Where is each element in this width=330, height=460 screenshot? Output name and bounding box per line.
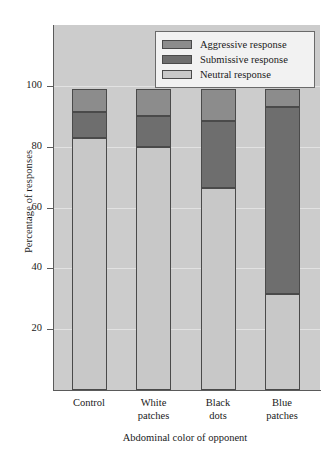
bar-segment: [265, 107, 300, 294]
bar-segment: [136, 147, 171, 390]
legend-swatch-neutral: [162, 70, 192, 79]
bar-segment: [201, 89, 236, 121]
y-tick-mark: [47, 147, 54, 148]
legend: Aggressive response Submissive response …: [155, 31, 315, 88]
legend-item-submissive: Submissive response: [162, 52, 308, 67]
legend-swatch-aggressive: [162, 40, 192, 49]
x-tick-label-line: Blue: [237, 396, 327, 409]
legend-label-submissive: Submissive response: [200, 54, 288, 65]
y-tick-mark: [47, 329, 54, 330]
y-tick-label: 40: [0, 261, 42, 272]
bar-segment: [265, 294, 300, 390]
bar-segment: [72, 138, 107, 390]
bar-segment: [265, 89, 300, 107]
legend-label-aggressive: Aggressive response: [200, 39, 287, 50]
x-axis-title: Abdominal color of opponent: [40, 432, 330, 443]
y-tick-label: 100: [0, 79, 42, 90]
bar-segment: [136, 116, 171, 146]
x-tick-label: Bluepatches: [237, 396, 327, 422]
legend-swatch-submissive: [162, 55, 192, 64]
y-tick-mark: [47, 268, 54, 269]
x-tick-label-line: patches: [237, 409, 327, 422]
x-axis-line: [53, 390, 321, 391]
y-tick-label: 60: [0, 201, 42, 212]
legend-item-neutral: Neutral response: [162, 67, 308, 82]
bar-segment: [201, 188, 236, 390]
bar-stack: [72, 25, 107, 390]
bar-segment: [136, 89, 171, 116]
y-tick-mark: [47, 86, 54, 87]
bar-segment: [201, 121, 236, 188]
bar-segment: [72, 89, 107, 112]
bar-segment: [72, 112, 107, 138]
chart-figure: Percentage of responses 20406080100 Cont…: [0, 0, 330, 460]
y-tick-label: 20: [0, 322, 42, 333]
y-tick-mark: [47, 208, 54, 209]
legend-label-neutral: Neutral response: [200, 69, 271, 80]
y-tick-label: 80: [0, 140, 42, 151]
legend-item-aggressive: Aggressive response: [162, 37, 308, 52]
